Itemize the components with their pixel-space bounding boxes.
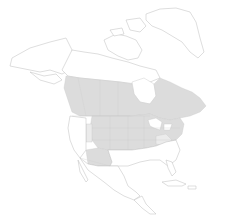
north-america-range-map (0, 0, 232, 220)
arctic-islands (104, 34, 142, 60)
caribbean (162, 180, 186, 186)
central-america (134, 196, 156, 214)
florida (166, 160, 176, 176)
greenland (146, 8, 204, 58)
us-west (68, 116, 86, 158)
range-secondary-west (86, 124, 92, 142)
